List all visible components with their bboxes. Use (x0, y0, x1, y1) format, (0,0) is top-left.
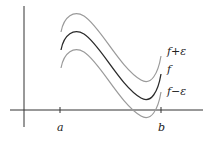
label-f-plus-epsilon: f+ε (166, 45, 186, 58)
epsilon-band-diagram: f+ε f f−ε a b (0, 0, 221, 143)
tick-label-b: b (158, 121, 165, 134)
curve-f (61, 32, 161, 100)
label-f-minus-epsilon: f−ε (166, 85, 186, 98)
label-f: f (166, 63, 173, 76)
curve-f-minus-epsilon (61, 50, 161, 118)
tick-label-a: a (57, 121, 64, 134)
curve-f-plus-epsilon (61, 14, 161, 82)
